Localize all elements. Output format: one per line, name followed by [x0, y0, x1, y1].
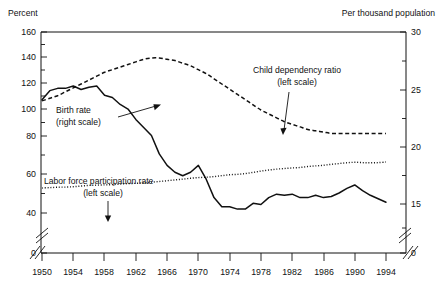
- x-tick-1966: 1966: [157, 267, 177, 277]
- birth-rate-annotation: Birth rate (right scale): [56, 104, 161, 127]
- x-tick-1986: 1986: [314, 267, 334, 277]
- x-tick-1962: 1962: [126, 267, 146, 277]
- x-tick-1994: 1994: [376, 267, 396, 277]
- y-left-tick-40: 40: [26, 208, 36, 218]
- left-axis-ticks: [41, 32, 47, 253]
- child-dependency-label: Child dependency ratio: [253, 65, 341, 75]
- y-left-tick-80: 80: [26, 131, 36, 141]
- x-tick-1950: 1950: [32, 267, 52, 277]
- birth-rate-arrowhead: [153, 104, 161, 110]
- x-tick-1990: 1990: [345, 267, 365, 277]
- chart-container: Percent Per thousand population 160: [0, 0, 443, 289]
- left-axis-break: [36, 228, 48, 243]
- y-left-tick-100: 100: [21, 104, 36, 114]
- plot-frame: [41, 32, 406, 253]
- child-dependency-annotation: Child dependency ratio (left scale): [253, 65, 341, 135]
- y-right-tick-25: 25: [411, 85, 421, 95]
- labor-force-arrowhead: [105, 216, 111, 222]
- child-dependency-sublabel: (left scale): [277, 77, 317, 87]
- right-axis-break: [399, 228, 411, 243]
- child-dependency-arrowhead: [280, 128, 286, 135]
- x-tick-1982: 1982: [282, 267, 302, 277]
- child-dependency-leader: [284, 92, 289, 130]
- right-axis-tick-labels: 30 25 20 15 0: [411, 27, 421, 258]
- plot-frame-group: [41, 32, 406, 253]
- labor-force-sublabel: (left scale): [83, 188, 123, 198]
- birth-rate-sublabel: (right scale): [56, 117, 101, 127]
- x-tick-1974: 1974: [220, 267, 240, 277]
- x-axis-ticks: [42, 253, 386, 261]
- labor-force-annotation: Labor force participation rate (left sca…: [44, 176, 154, 222]
- left-axis-title: Percent: [8, 8, 38, 18]
- y-left-tick-60: 60: [26, 169, 36, 179]
- right-axis-title: Per thousand population: [342, 8, 435, 18]
- x-axis-tick-labels: 1950 1954 1958 1962 1966 1970 1974 1978 …: [32, 267, 396, 277]
- y-right-tick-20: 20: [411, 142, 421, 152]
- y-left-tick-160: 160: [21, 27, 36, 37]
- birth-rate-label: Birth rate: [56, 105, 91, 115]
- y-left-tick-120: 120: [21, 78, 36, 88]
- labor-force-label: Labor force participation rate: [44, 176, 154, 186]
- x-tick-1970: 1970: [188, 267, 208, 277]
- y-left-tick-140: 140: [21, 52, 36, 62]
- chart-svg: Percent Per thousand population 160: [0, 0, 443, 289]
- right-axis-ticks: [400, 32, 406, 253]
- y-right-tick-30: 30: [411, 27, 421, 37]
- x-tick-1978: 1978: [251, 267, 271, 277]
- left-axis-tick-labels: 160 140 120 100 80 60 40 0: [21, 27, 36, 258]
- birth-rate-leader: [118, 106, 156, 117]
- y-right-tick-15: 15: [411, 199, 421, 209]
- x-tick-1954: 1954: [63, 267, 83, 277]
- x-tick-1958: 1958: [94, 267, 114, 277]
